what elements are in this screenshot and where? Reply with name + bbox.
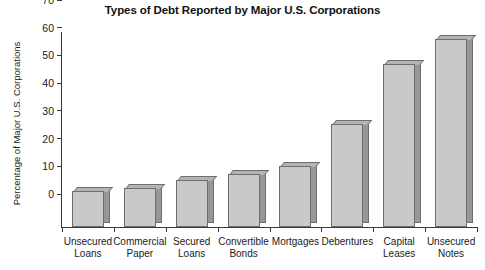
bar-group bbox=[176, 175, 214, 227]
bar-group bbox=[331, 119, 369, 227]
x-tick-mark bbox=[425, 227, 426, 232]
bar[interactable] bbox=[124, 188, 156, 227]
y-tick-mark bbox=[57, 0, 62, 1]
bar-side-face bbox=[311, 162, 317, 223]
y-tick-label: 50 bbox=[42, 49, 54, 61]
bar[interactable] bbox=[228, 174, 260, 227]
bar-side-face bbox=[260, 170, 266, 223]
bar[interactable] bbox=[331, 124, 363, 227]
bar-group bbox=[72, 186, 110, 227]
x-category-label-line: Notes bbox=[417, 248, 485, 260]
y-tick-label: 20 bbox=[42, 133, 54, 145]
bar[interactable] bbox=[435, 39, 467, 227]
y-tick-label: 0 bbox=[48, 188, 54, 200]
y-tick-label: 60 bbox=[42, 22, 54, 34]
x-category-label-line: Bonds bbox=[210, 248, 278, 260]
x-tick-mark bbox=[270, 227, 271, 232]
y-tick-label: 70 bbox=[42, 0, 54, 6]
x-tick-mark bbox=[218, 227, 219, 232]
bar[interactable] bbox=[176, 180, 208, 227]
bar[interactable] bbox=[72, 191, 104, 227]
bar-side-face bbox=[467, 35, 473, 223]
bar[interactable] bbox=[383, 64, 415, 228]
bar-group bbox=[435, 34, 473, 227]
bar-group bbox=[228, 169, 266, 227]
x-tick-mark bbox=[373, 227, 374, 232]
plot-area bbox=[62, 33, 477, 227]
x-tick-mark bbox=[321, 227, 322, 232]
x-tick-mark bbox=[477, 227, 478, 232]
y-tick-label: 30 bbox=[42, 105, 54, 117]
y-tick-label: 40 bbox=[42, 77, 54, 89]
bar-group bbox=[279, 161, 317, 227]
y-axis-ticks: 010203040506070 bbox=[0, 0, 62, 194]
bar-side-face bbox=[156, 184, 162, 223]
bar[interactable] bbox=[279, 166, 311, 227]
y-tick-mark bbox=[57, 27, 62, 28]
x-tick-mark bbox=[166, 227, 167, 232]
bar-side-face bbox=[363, 120, 369, 223]
bar-side-face bbox=[104, 187, 110, 223]
bar-group bbox=[383, 59, 421, 228]
x-category-label: UnsecuredNotes bbox=[417, 236, 485, 259]
x-category-label-line: Unsecured bbox=[417, 236, 485, 248]
bar-chart: Types of Debt Reported by Major U.S. Cor… bbox=[0, 0, 485, 270]
y-tick-label: 10 bbox=[42, 160, 54, 172]
bar-side-face bbox=[415, 60, 421, 224]
x-tick-mark bbox=[114, 227, 115, 232]
chart-title: Types of Debt Reported by Major U.S. Cor… bbox=[0, 4, 485, 16]
x-tick-mark bbox=[62, 227, 63, 232]
bar-side-face bbox=[208, 176, 214, 223]
bar-group bbox=[124, 183, 162, 227]
